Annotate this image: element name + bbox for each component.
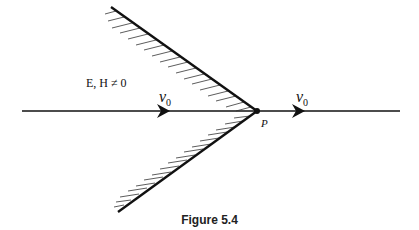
velocity-label-right: v0 xyxy=(296,88,308,108)
upper-wall-hatching xyxy=(105,11,251,111)
figure-caption: Figure 5.4 xyxy=(0,213,419,227)
velocity-label-left: v0 xyxy=(159,88,171,108)
velocity-subscript: 0 xyxy=(166,97,171,108)
lower-wall xyxy=(118,111,257,212)
figure-5-4: E, H ≠ 0 v0 v0 P Figure 5.4 xyxy=(0,0,419,230)
vertex-label: P xyxy=(261,117,268,129)
upper-wall xyxy=(111,7,257,111)
wedge-diagram xyxy=(0,0,419,230)
velocity-subscript: 0 xyxy=(303,97,308,108)
vertex-point xyxy=(254,108,260,114)
field-label: E, H ≠ 0 xyxy=(86,76,127,91)
